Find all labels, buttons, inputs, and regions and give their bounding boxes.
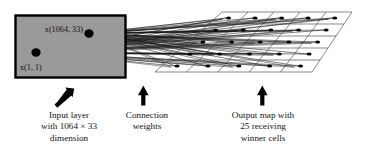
winner-cell-dot (315, 41, 320, 44)
winner-cell-dot (253, 17, 258, 20)
input-node-top-label: x(1064, 33) (45, 25, 83, 34)
winner-cell-dot (247, 53, 252, 56)
input-node-top (84, 29, 93, 37)
arrow-input-layer (55, 88, 75, 108)
winner-cell-dot (175, 65, 180, 68)
winner-cell-dot (187, 53, 192, 56)
arrow-connection-weights (138, 86, 149, 106)
winner-cell-dot (213, 29, 218, 32)
winner-cell-dot (296, 29, 301, 32)
arrow-output-map (257, 86, 268, 106)
winner-cell-dot (229, 41, 234, 44)
input-node-bottom-label: x(1, 1) (20, 63, 42, 72)
winner-cell-dot (236, 65, 241, 68)
caption-output-map: Output map with 25 receiving winner cell… (196, 110, 330, 144)
winner-cell-dot (307, 53, 312, 56)
caption-connection-weights: Connection weights (108, 110, 186, 133)
winner-cell-dot (268, 29, 273, 32)
figure-container: x(1064, 33) x(1, 1) Input layer with 106… (0, 0, 372, 158)
winner-cell-dot (200, 41, 205, 44)
winner-cell-dot (226, 17, 231, 20)
winner-cell-dot (332, 17, 337, 20)
winner-cell-dot (217, 53, 222, 56)
winner-cell-dot (267, 65, 272, 68)
winner-cell-dot (241, 29, 246, 32)
winner-cell-dot (277, 53, 282, 56)
winner-cell-dot (279, 17, 284, 20)
winner-cell-dot (298, 65, 303, 68)
winner-cell-dot (324, 29, 329, 32)
winner-cell-dot (205, 65, 210, 68)
input-node-bottom (31, 48, 40, 56)
winner-cell-dot (258, 41, 263, 44)
winner-cell-dot (306, 17, 311, 20)
winner-cell-dot (286, 41, 291, 44)
